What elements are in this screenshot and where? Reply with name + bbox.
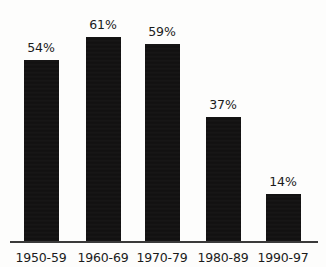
bar-value-label: 59% <box>132 24 192 39</box>
bar-value-label: 54% <box>11 40 71 55</box>
bar-value-label: 14% <box>253 174 313 189</box>
bar <box>86 37 121 241</box>
category-label: 1990-97 <box>248 250 318 265</box>
bar <box>266 194 301 241</box>
plot-area: 54%1950-5961%1960-6959%1970-7937%1980-89… <box>0 0 326 267</box>
bar <box>145 44 180 241</box>
bar <box>24 60 59 241</box>
bar-value-label: 37% <box>193 97 253 112</box>
x-axis-line <box>10 241 318 243</box>
bar <box>206 117 241 241</box>
category-label: 1970-79 <box>127 250 197 265</box>
chart-page: 54%1950-5961%1960-6959%1970-7937%1980-89… <box>0 0 326 267</box>
bar-value-label: 61% <box>73 17 133 32</box>
category-label: 1950-59 <box>6 250 76 265</box>
